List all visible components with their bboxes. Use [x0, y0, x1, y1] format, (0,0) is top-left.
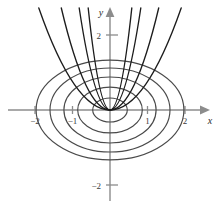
plot-canvas: −2 −1 1 2 2 −2 x y	[0, 0, 220, 211]
y-tick-label-2: 2	[97, 31, 102, 41]
x-tick-label-minus1: −1	[68, 116, 78, 126]
axes-group	[8, 7, 210, 201]
math-figure: −2 −1 1 2 2 −2 x y	[0, 0, 220, 211]
axis-labels-group: x y	[98, 7, 213, 126]
y-tick-label-minus2: −2	[91, 181, 101, 191]
x-tick-label-1: 1	[145, 116, 150, 126]
y-axis-arrow-icon	[106, 7, 115, 17]
y-axis-label: y	[98, 7, 104, 18]
x-tick-label-2: 2	[183, 116, 188, 126]
x-axis-label: x	[207, 115, 213, 126]
x-axis-arrow-icon	[200, 106, 210, 115]
x-tick-label-minus2: −2	[30, 116, 40, 126]
